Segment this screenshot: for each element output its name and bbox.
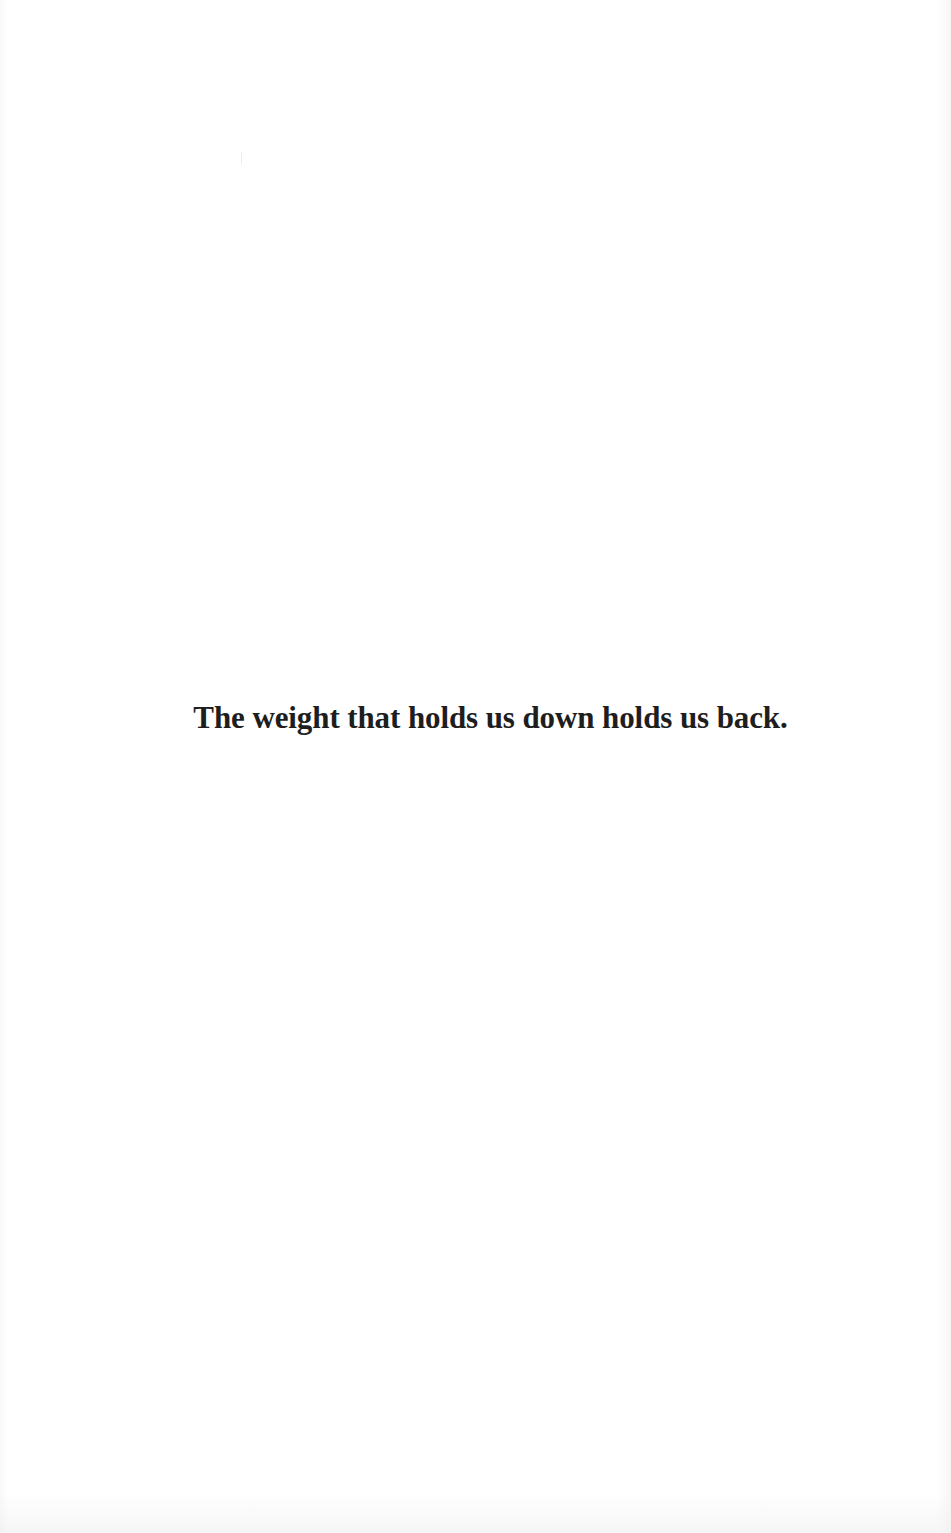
page-bottom-edge-shadow (0, 1493, 951, 1533)
scan-artifact (241, 152, 242, 164)
page-left-edge-shadow (0, 0, 8, 1533)
book-page: The weight that holds us down holds us b… (0, 0, 951, 1533)
epigraph-text: The weight that holds us down holds us b… (0, 700, 951, 736)
page-right-edge-shadow (937, 0, 951, 1533)
